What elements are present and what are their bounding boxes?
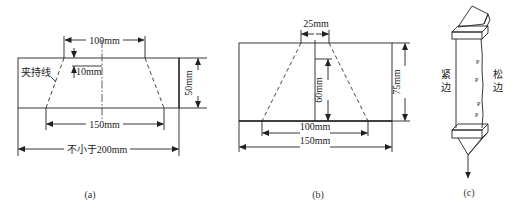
dim-a-top-width: 100mm (89, 35, 120, 46)
svg-text:P: P (476, 59, 480, 65)
clamp-line-right (145, 58, 164, 108)
svg-text:P: P (475, 77, 479, 83)
svg-text:P: P (477, 101, 481, 107)
top-clamp-block (452, 32, 482, 39)
dim-a-total-length: 不小于200mm (67, 144, 128, 155)
dim-b-bottom-width: 100mm (300, 121, 331, 132)
caption-b: (b) (312, 189, 324, 201)
dim-b-cut-depth: 60mm (313, 77, 324, 103)
label-clamp-line: 夹持线 (21, 66, 51, 78)
label-loose-edge-char2: 边 (493, 82, 503, 93)
figure-b: 25mm 60mm 75mm 100mm 150mm (b) (239, 18, 410, 201)
label-loose-edge-char1: 松 (493, 68, 503, 80)
caption-c: (c) (463, 187, 474, 199)
dim-a-notch-depth: 10mm (76, 66, 102, 77)
dim-b-height: 75mm (391, 69, 402, 95)
clamp-line-left (46, 58, 64, 108)
label-tight-edge-char2: 边 (441, 82, 451, 93)
dim-a-bottom-width: 150mm (89, 119, 120, 130)
diagram-canvas: 100mm 10mm 夹持线 50mm 150mm 不小于200mm (a) (0, 0, 515, 216)
dim-a-height: 50mm (183, 70, 194, 96)
loose-edge-line (481, 39, 483, 128)
dim-b-top-width: 25mm (303, 18, 329, 29)
dim-b-total-width: 150mm (300, 135, 331, 146)
bottom-clamp-block (452, 130, 482, 138)
tear-line-left (262, 43, 301, 121)
top-clamp-wedge (458, 6, 488, 27)
label-tight-edge-char1: 紧 (441, 69, 451, 80)
caption-a: (a) (84, 189, 95, 201)
tear-line-right (329, 43, 368, 121)
svg-text:P: P (475, 112, 479, 118)
figure-c: P P P P 紧 边 松 边 (c) (441, 6, 503, 199)
figure-a: 100mm 10mm 夹持线 50mm 150mm 不小于200mm (a) (18, 35, 207, 202)
